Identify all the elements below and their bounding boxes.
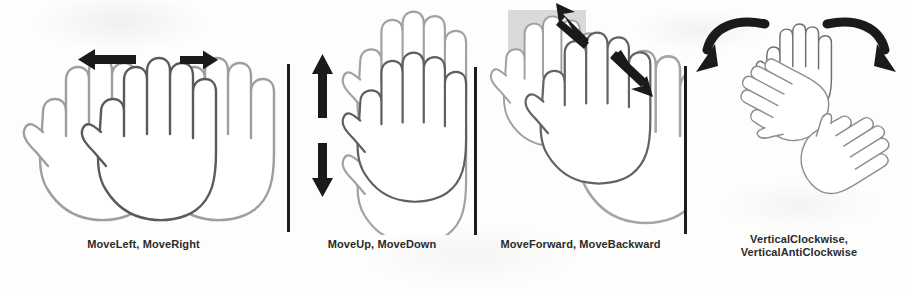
panel-1-illustration xyxy=(0,0,287,235)
caption-move-left-right: MoveLeft, MoveRight xyxy=(0,238,287,251)
arrow-up-icon xyxy=(312,54,333,118)
panel-4-illustration xyxy=(687,0,911,235)
caption-vertical-rotation: VerticalClockwise, VerticalAntiClockwise xyxy=(687,233,911,259)
curved-arrow-right-icon xyxy=(827,22,896,72)
panel-move-up-down: MoveUp, MoveDown xyxy=(290,0,474,289)
arrow-down-icon xyxy=(312,143,333,197)
panel-3-illustration xyxy=(477,0,684,235)
caption-move-forward-backward: MoveForward, MoveBackward xyxy=(477,238,684,251)
panel-vertical-rotation: VerticalClockwise, VerticalAntiClockwise xyxy=(687,0,911,289)
panel-2-illustration xyxy=(290,0,474,235)
panel-move-forward-backward: MoveForward, MoveBackward xyxy=(477,0,684,289)
caption-move-up-down: MoveUp, MoveDown xyxy=(290,238,474,251)
gesture-vocabulary-figure: MoveLeft, MoveRight xyxy=(0,0,911,289)
panel-move-left-right: MoveLeft, MoveRight xyxy=(0,0,287,289)
curved-arrow-left-icon xyxy=(696,22,765,72)
